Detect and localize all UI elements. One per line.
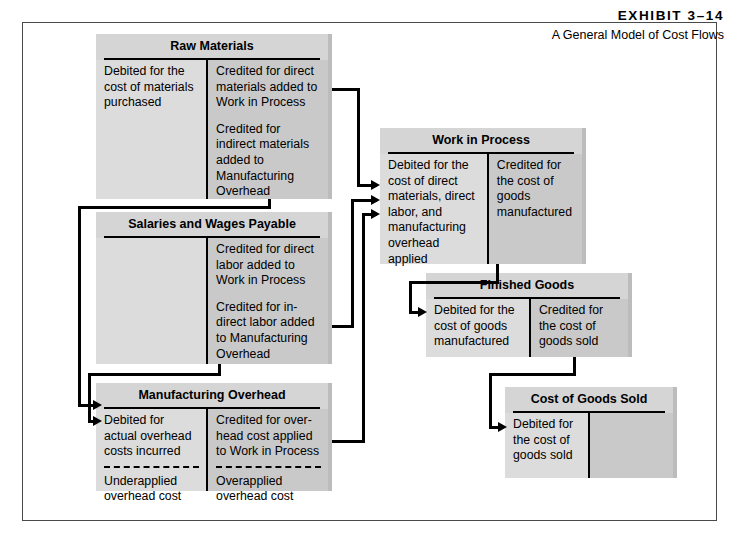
arrow-wip-to-fg [418, 307, 427, 317]
connector-fg-to-cogs-horizontal-top [489, 373, 576, 376]
taccount-finished-goods: Finished Goods Debited for the cost of g… [426, 273, 632, 357]
connector-rm-to-moh-vertical-left [78, 206, 81, 407]
salaries-wages-credit-column: Credited for direct labor added to Work … [206, 238, 328, 364]
finished-goods-credit-text: Credited for the cost of goods sold [539, 303, 621, 350]
manufacturing-overhead-underapplied-text: Underapplied overhead cost [104, 474, 199, 505]
taccount-manufacturing-overhead: Manufacturing Overhead Debited for actua… [96, 383, 332, 491]
cost-of-goods-sold-title: Cost of Goods Sold [505, 387, 673, 411]
raw-materials-credit-column: Credited for direct materials added to W… [206, 60, 328, 199]
salaries-wages-credit-text-2: Credited for in-direct labor added to Ma… [216, 300, 321, 362]
arrow-swp-to-wip [371, 195, 380, 205]
connector-swp-to-wip-vertical [351, 199, 354, 328]
raw-materials-credit-text-1: Credited for direct materials added to W… [216, 64, 321, 111]
taccount-salaries-wages-payable: Salaries and Wages Payable Credited for … [96, 212, 332, 364]
connector-wip-to-fg-horizontal-top [409, 281, 499, 284]
salaries-wages-debit-column [96, 238, 206, 364]
cost-of-goods-sold-debit-column: Debited for the cost of goods sold [505, 413, 588, 478]
work-in-process-title: Work in Process [380, 128, 582, 152]
salaries-wages-title: Salaries and Wages Payable [96, 212, 328, 236]
connector-swp-to-moh-vertical-left [88, 373, 91, 423]
taccount-work-in-process: Work in Process Debited for the cost of … [380, 128, 586, 264]
exhibit-number: EXHIBIT 3–14 [424, 8, 724, 25]
manufacturing-overhead-credit-text: Credited for over-head cost applied to W… [216, 413, 321, 460]
work-in-process-debit-column: Debited for the cost of direct materials… [380, 154, 487, 264]
cost-of-goods-sold-credit-column [588, 413, 673, 478]
cost-of-goods-sold-debit-text: Debited for the cost of goods sold [513, 417, 581, 464]
connector-moh-to-wip-vertical [362, 213, 365, 443]
salaries-wages-credit-text-1: Credited for direct labor added to Work … [216, 242, 321, 289]
arrow-fg-to-cogs [498, 422, 507, 432]
finished-goods-debit-text: Debited for the cost of goods manufactur… [434, 303, 522, 350]
manufacturing-overhead-title: Manufacturing Overhead [96, 383, 328, 407]
finished-goods-title: Finished Goods [426, 273, 628, 297]
connector-rm-to-wip-vertical [357, 88, 360, 186]
exhibit-title-block: EXHIBIT 3–14 A General Model of Cost Flo… [424, 8, 724, 44]
finished-goods-credit-column: Credited for the cost of goods sold [529, 299, 628, 357]
arrow-rm-to-moh [93, 400, 102, 410]
taccount-cost-of-goods-sold: Cost of Goods Sold Debited for the cost … [505, 387, 677, 478]
connector-moh-to-wip-horizontal-right [332, 440, 365, 443]
arrow-swp-to-moh [93, 416, 102, 426]
connector-swp-to-moh-horizontal-top [88, 373, 221, 376]
taccount-raw-materials: Raw Materials Debited for the cost of ma… [96, 34, 332, 199]
raw-materials-debit-column: Debited for the cost of materials purcha… [96, 60, 206, 199]
connector-fg-to-cogs-vertical-left [489, 373, 492, 429]
arrow-moh-to-wip [371, 209, 380, 219]
manufacturing-overhead-credit-divider [216, 466, 321, 468]
exhibit-subtitle: A General Model of Cost Flows [424, 27, 724, 44]
manufacturing-overhead-overapplied-text: Overapplied overhead cost [216, 474, 321, 505]
work-in-process-credit-column: Credited for the cost of goods manufactu… [487, 154, 582, 264]
raw-materials-credit-text-2: Credited for indirect materials added to… [216, 122, 321, 200]
manufacturing-overhead-credit-column: Credited for over-head cost applied to W… [206, 409, 328, 491]
manufacturing-overhead-debit-text: Debited for actual overhead costs incurr… [104, 413, 199, 460]
manufacturing-overhead-debit-divider [104, 466, 199, 468]
connector-rm-to-moh-horizontal-top [78, 206, 271, 209]
arrow-rm-to-wip [371, 180, 380, 190]
manufacturing-overhead-debit-column: Debited for actual overhead costs incurr… [96, 409, 206, 491]
work-in-process-credit-text: Credited for the cost of goods manufactu… [497, 158, 575, 220]
connector-wip-to-fg-vertical-left [409, 281, 412, 314]
work-in-process-debit-text: Debited for the cost of direct materials… [388, 158, 480, 267]
connector-rm-to-wip-horizontal-top [332, 88, 360, 91]
finished-goods-debit-column: Debited for the cost of goods manufactur… [426, 299, 529, 357]
raw-materials-title: Raw Materials [96, 34, 328, 58]
exhibit-page: EXHIBIT 3–14 A General Model of Cost Flo… [0, 0, 738, 543]
raw-materials-debit-text: Debited for the cost of materials purcha… [104, 64, 199, 111]
